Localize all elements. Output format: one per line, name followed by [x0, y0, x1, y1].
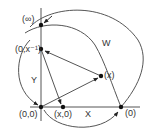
label-w: W	[102, 39, 111, 48]
label-zero-xinv: (0,x⁻¹)	[15, 45, 41, 54]
label-x-point: (x)	[104, 71, 115, 80]
label-x-zero: (x,0)	[54, 110, 72, 119]
label-x-axis: X	[85, 110, 91, 119]
point-infinity	[39, 23, 43, 27]
outer-arc	[30, 10, 143, 107]
arrow-to-infinity	[44, 16, 52, 23]
point-origin	[39, 105, 43, 109]
label-y-axis: Y	[31, 76, 37, 85]
label-origin: (0,0)	[19, 110, 38, 119]
arrow-x-to-zero-xinv	[45, 51, 101, 76]
label-zero-point: (0)	[125, 109, 136, 118]
label-infinity: (∞)	[22, 15, 34, 24]
point-zero	[119, 105, 123, 109]
point-x	[99, 74, 103, 78]
arrow-origin-to-x	[41, 78, 98, 107]
